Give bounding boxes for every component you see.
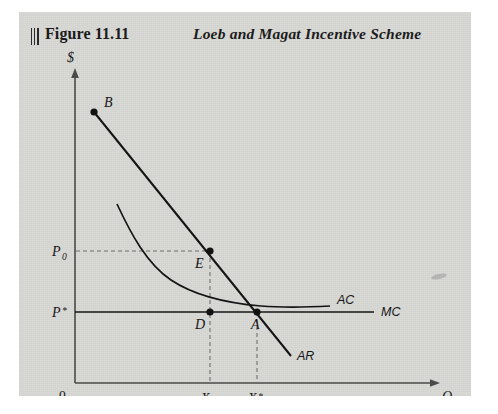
- curve-label-ac: AC: [336, 293, 355, 307]
- y-tick-label-pstar: P *: [51, 305, 67, 320]
- point-E: [206, 247, 213, 254]
- y-axis: [71, 68, 79, 383]
- y-tick-pstar-superscript: *: [62, 306, 67, 316]
- y-tick-p0-subscript: 0: [62, 252, 67, 262]
- origin-label: 0: [59, 387, 66, 396]
- curve-ac: [117, 204, 330, 307]
- curve-ar: [94, 112, 291, 356]
- curve-label-mc: MC: [381, 305, 401, 319]
- figure-page: Figure 11.11 Loeb and Magat Incentive Sc…: [0, 0, 498, 414]
- x-tick-x0-base: X: [200, 391, 210, 396]
- point-label-B: B: [104, 95, 113, 110]
- y-tick-p0-base: P: [51, 244, 61, 259]
- point-B: [90, 108, 97, 115]
- x-tick-xstar-base: X: [247, 391, 257, 396]
- point-label-D: D: [194, 317, 205, 332]
- y-axis-label: $: [67, 50, 74, 65]
- curve-label-ar: AR: [296, 349, 314, 363]
- point-label-A: A: [250, 317, 260, 332]
- figure-plot: B E D A AC MC AR $ Q 0 P 0 P * X: [19, 12, 471, 396]
- point-label-E: E: [194, 256, 204, 271]
- point-A: [253, 308, 260, 315]
- x-tick-label-xstar: X *: [247, 391, 263, 396]
- y-tick-pstar-base: P: [51, 305, 61, 320]
- figure-panel: Figure 11.11 Loeb and Magat Incentive Sc…: [19, 12, 471, 396]
- x-axis-label: Q: [442, 389, 452, 396]
- x-tick-xstar-superscript: *: [258, 392, 263, 396]
- x-tick-label-x0: X 0: [200, 391, 216, 396]
- y-tick-label-p0: P 0: [51, 244, 67, 262]
- point-D: [206, 308, 213, 315]
